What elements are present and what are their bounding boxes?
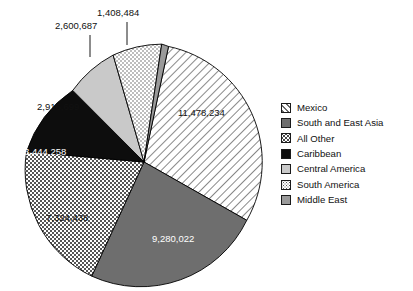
legend-swatch-solid-black-icon	[281, 149, 291, 159]
legend-swatch-mid-gray-icon	[281, 195, 291, 205]
legend-item-caribbean[interactable]: Caribbean	[281, 146, 411, 161]
legend-label-central-america: Central America	[297, 164, 365, 174]
slice-value-central-america: 2,916,699	[37, 101, 79, 112]
legend-item-south-america[interactable]: South America	[281, 177, 411, 192]
legend-item-south-and-east-asia[interactable]: South and East Asia	[281, 115, 411, 130]
callout-label-middle-east: 1,408,484	[97, 7, 139, 18]
legend-label-middle-east: Middle East	[297, 195, 347, 205]
legend-swatch-solid-gray-icon	[281, 118, 291, 128]
legend: Mexico South and East Asia All Other Car…	[281, 100, 411, 208]
legend-swatch-coarse-dots-icon	[281, 133, 291, 143]
slice-value-all-other: 7,324,438	[46, 212, 88, 223]
legend-item-mexico[interactable]: Mexico	[281, 100, 411, 115]
legend-label-south-america: South America	[297, 180, 359, 190]
slice-value-caribbean: 3,444,258	[24, 146, 66, 157]
slice-value-south-and-east-asia: 9,280,022	[152, 233, 194, 244]
legend-item-all-other[interactable]: All Other	[281, 131, 411, 146]
legend-swatch-light-gray-icon	[281, 164, 291, 174]
legend-swatch-fine-dots-icon	[281, 180, 291, 190]
legend-label-caribbean: Caribbean	[297, 149, 341, 159]
legend-label-south-and-east-asia: South and East Asia	[297, 118, 383, 128]
legend-label-all-other: All Other	[297, 134, 334, 144]
legend-swatch-diagonal-hatch-icon	[281, 103, 291, 113]
legend-item-central-america[interactable]: Central America	[281, 162, 411, 177]
callout-label-south-america: 2,600,687	[55, 20, 97, 31]
legend-label-mexico: Mexico	[297, 103, 327, 113]
slice-value-mexico: 11,478,234	[178, 107, 225, 118]
pie-slices	[25, 44, 262, 287]
legend-item-middle-east[interactable]: Middle East	[281, 192, 411, 207]
